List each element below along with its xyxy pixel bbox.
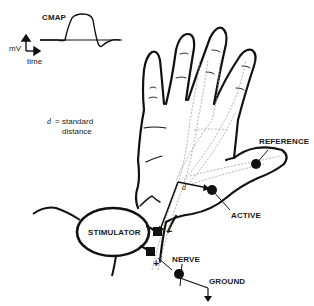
distance-note-line1: standard bbox=[62, 118, 93, 126]
distance-note-line2: distance bbox=[62, 128, 92, 136]
nerve-label: NERVE bbox=[172, 256, 200, 264]
distance-symbol: d bbox=[47, 118, 51, 126]
distance-equals: = bbox=[55, 118, 60, 126]
ground-electrode bbox=[174, 264, 212, 302]
active-label: ACTIVE bbox=[231, 212, 261, 220]
reference-label: REFERENCE bbox=[259, 138, 309, 146]
axes-icon bbox=[22, 35, 40, 55]
time-axis-label: time bbox=[27, 58, 42, 66]
mv-axis-label: mV bbox=[9, 45, 21, 53]
reference-electrode bbox=[251, 150, 268, 169]
nerve-conduction-diagram: CMAP mV time d = standard distance d REF… bbox=[0, 0, 314, 306]
d-marker: d bbox=[182, 184, 186, 192]
cmap-label: CMAP bbox=[42, 14, 66, 22]
cathode-sign: − bbox=[166, 226, 172, 237]
anode-sign: + bbox=[153, 258, 159, 269]
stimulator-label: STIMULATOR bbox=[88, 229, 141, 237]
cathode-electrode bbox=[153, 227, 162, 236]
stimulator-device bbox=[33, 208, 172, 276]
anode-electrode bbox=[146, 247, 155, 256]
ground-label: GROUND bbox=[209, 278, 245, 286]
